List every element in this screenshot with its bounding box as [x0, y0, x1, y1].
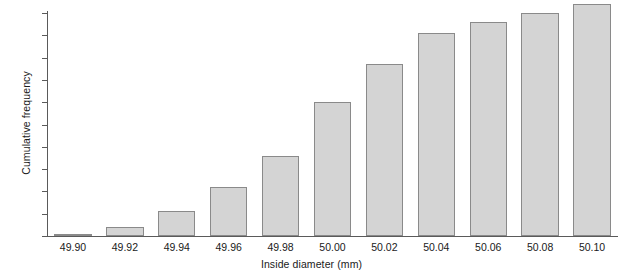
bar [521, 13, 558, 236]
x-axis-tick-label: 49.94 [151, 241, 203, 253]
bar [314, 102, 351, 236]
x-axis-tick-label: 49.90 [47, 241, 99, 253]
bar [210, 187, 247, 236]
x-axis-tick-label: 50.02 [358, 241, 410, 253]
bar [418, 33, 455, 236]
bar [54, 234, 91, 236]
cumulative-frequency-bar-chart: Cumulative frequency 0102030405060708090… [0, 0, 623, 279]
plot-area [47, 0, 619, 237]
y-axis-title: Cumulative frequency [20, 48, 32, 198]
bar [262, 156, 299, 236]
bar [470, 22, 507, 236]
bars-layer [47, 0, 619, 237]
x-axis-tick-label: 50.06 [462, 241, 514, 253]
x-axis-tick-label: 50.00 [307, 241, 359, 253]
x-axis-tick-label: 49.92 [99, 241, 151, 253]
x-axis-tick-label: 49.96 [203, 241, 255, 253]
bar [366, 64, 403, 236]
x-axis-tick-labels: 49.9049.9249.9449.9649.9850.0050.0250.04… [47, 241, 619, 257]
x-axis-title: Inside diameter (mm) [0, 258, 623, 270]
x-axis-tick-label: 50.10 [566, 241, 618, 253]
x-axis-tick-label: 49.98 [255, 241, 307, 253]
bar [106, 227, 143, 236]
x-axis-tick-label: 50.08 [514, 241, 566, 253]
bar [158, 211, 195, 236]
bar [573, 4, 610, 236]
x-axis-tick-label: 50.04 [410, 241, 462, 253]
